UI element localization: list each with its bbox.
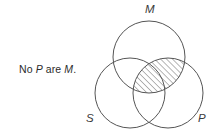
- circle-label-p: P: [198, 112, 206, 124]
- caption-prefix: No: [19, 63, 36, 75]
- caption-term-m: M: [64, 63, 73, 75]
- caption-suffix: .: [73, 63, 76, 75]
- caption-middle: are: [43, 63, 65, 75]
- venn-diagram-figure: No P are M. M S P: [0, 0, 220, 139]
- circle-label-s: S: [86, 112, 94, 124]
- circle-label-m: M: [145, 3, 155, 15]
- caption-term-p: P: [36, 63, 43, 75]
- caption-text: No P are M.: [19, 63, 76, 75]
